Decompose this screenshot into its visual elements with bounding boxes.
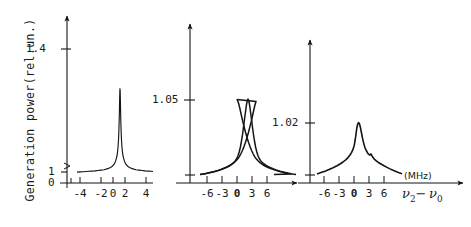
panel-1-axes: [60, 16, 153, 188]
generation-power-resonance-figure: Generation power(rel.un.): [0, 0, 471, 227]
nu-symbol: ν: [402, 186, 410, 201]
panel-3-xtick-6: 6: [374, 187, 394, 200]
panel-3-curve: [317, 123, 402, 175]
panel-1-xtick-2: 2: [115, 187, 135, 200]
panel-1-curve: [77, 89, 153, 172]
nu-symbol-2: ν: [429, 186, 437, 201]
panel-3-axes: [298, 40, 463, 183]
x-axis-unit-label: (MHz): [404, 170, 432, 181]
x-axis-variable-label: ν2− ν0: [402, 186, 443, 204]
panel-1-yorigin-0: 0: [48, 176, 55, 189]
panel-1-xtick-4: 4: [136, 187, 156, 200]
panel-3-ytick-1_02: 1.02: [272, 116, 299, 129]
nu-subscript-0: 0: [437, 194, 443, 204]
panel-2-curve-path: [200, 99, 296, 175]
panel-1-xtick--4: -4: [70, 187, 90, 200]
panel-1-ytick-1_4: 1.4: [26, 42, 46, 55]
minus-sign: −: [416, 186, 427, 201]
panel-2-xtick-6: 6: [257, 187, 277, 200]
panel-2-ytick-1_05: 1.05: [152, 93, 179, 106]
